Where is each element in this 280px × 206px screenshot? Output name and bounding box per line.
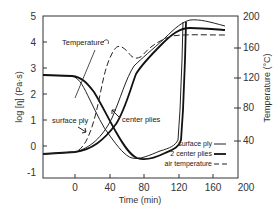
y-tick-4: 4 <box>30 37 36 48</box>
x-tick-160: 160 <box>205 182 222 193</box>
y-tick-3: 3 <box>30 63 36 74</box>
right-y-axis-title: Temperature (°C) <box>262 53 272 122</box>
y-tick-neg1: -1 <box>27 167 36 178</box>
legend: surface ply 2 center plies air temperatu… <box>165 140 228 168</box>
x-axis-title: Time (min) <box>119 195 162 205</box>
y-axis-title: log [η] (Pa·s) <box>14 71 24 123</box>
x-tick-200: 200 <box>238 182 255 193</box>
air-temperature-line <box>43 35 225 154</box>
legend-surface-ply: surface ply <box>178 140 212 148</box>
x-axis <box>75 174 213 178</box>
surface-ply-arrow-icon <box>78 127 86 133</box>
y-tick-5: 5 <box>30 11 36 22</box>
x-tick-0: 0 <box>72 182 78 193</box>
right-tick-200: 200 <box>243 11 260 22</box>
chart-figure: 5 4 3 2 1 0 -1 log [η] (Pa·s) 200 160 12… <box>0 0 280 206</box>
y-tick-1: 1 <box>30 115 36 126</box>
legend-air-temperature: air temperature <box>165 160 213 168</box>
y-tick-0: 0 <box>30 141 36 152</box>
left-y-axis <box>43 42 47 146</box>
right-tick-160: 160 <box>243 42 260 53</box>
right-tick-80: 80 <box>243 102 255 113</box>
right-tick-120: 120 <box>243 72 260 83</box>
right-tick-40: 40 <box>243 135 255 146</box>
x-tick-40: 40 <box>104 182 116 193</box>
x-tick-80: 80 <box>138 182 150 193</box>
y-tick-2: 2 <box>30 89 36 100</box>
temperature-annotation: Temperature <box>62 38 104 47</box>
legend-center-plies: 2 center plies <box>170 150 212 158</box>
x-tick-120: 120 <box>171 182 188 193</box>
surface-ply-annotation: surface ply <box>52 116 89 125</box>
center-plies-annotation: center plies <box>122 115 161 124</box>
